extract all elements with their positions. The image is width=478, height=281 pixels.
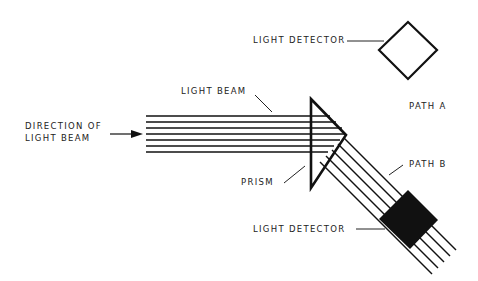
prism-icon xyxy=(311,99,346,188)
light-detector-top-icon xyxy=(379,22,437,79)
label-light-detector-bottom: LIGHT DETECTOR xyxy=(253,223,346,236)
label-path-a: PATH A xyxy=(409,100,447,113)
prism-light-diagram: LIGHT DETECTOR LIGHT BEAM PATH A DIRECTI… xyxy=(0,0,478,281)
label-prism: PRISM xyxy=(241,176,274,189)
label-path-b: PATH B xyxy=(409,158,447,171)
incoming-light-beam xyxy=(146,116,346,152)
leader-path-b xyxy=(389,165,403,175)
leader-prism xyxy=(284,166,305,183)
label-direction-line2: LIGHT BEAM xyxy=(25,132,90,145)
leader-light-beam xyxy=(255,95,272,112)
label-light-beam: LIGHT BEAM xyxy=(181,85,246,98)
arrow-right-icon xyxy=(131,130,143,138)
label-light-detector-top: LIGHT DETECTOR xyxy=(253,34,346,47)
light-detector-bottom-icon xyxy=(379,190,438,249)
